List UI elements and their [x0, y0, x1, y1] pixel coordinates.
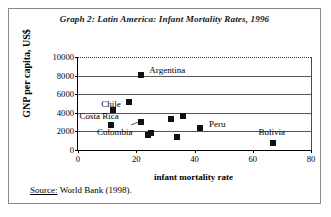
y-tick-label: 4000 [57, 108, 74, 118]
y-tick-label: 2000 [57, 126, 74, 136]
y-tick-mark [75, 113, 78, 114]
y-axis-title: GNP per capita, US$ [21, 26, 32, 122]
point-label-costa-rica: Costa Rica [79, 111, 118, 121]
y-tick-mark [75, 57, 78, 58]
y-tick-label: 8000 [57, 71, 74, 81]
data-point-bolivia [270, 140, 276, 146]
x-tick-label: 20 [132, 154, 141, 164]
x-tick-mark [253, 150, 254, 153]
point-label-argentina: Argentina [149, 65, 185, 75]
data-point [174, 134, 180, 140]
data-point-peru [197, 125, 203, 131]
gridline [78, 94, 311, 95]
gridline [78, 76, 311, 77]
plot-area: 0200040006000800010000 020406080 Argenti… [77, 57, 311, 151]
data-point [126, 99, 132, 105]
x-tick-mark [195, 150, 196, 153]
data-point-argentina [138, 72, 144, 78]
y-tick-label: 6000 [57, 89, 74, 99]
x-tick-mark [311, 150, 312, 153]
y-tick-label: 10000 [53, 52, 74, 62]
y-tick-mark [75, 76, 78, 77]
x-tick-label: 60 [248, 154, 257, 164]
x-axis-title: infant mortality rate [77, 172, 310, 182]
y-tick-label: 0 [70, 145, 74, 155]
point-label-bolivia: Bolivia [259, 127, 286, 137]
y-tick-mark [75, 131, 78, 132]
source-text: World Bank (1998). [60, 185, 132, 195]
data-point-colombia [138, 119, 144, 125]
plot-right-edge [311, 57, 312, 150]
x-tick-label: 0 [76, 154, 80, 164]
x-tick-mark [136, 150, 137, 153]
source-label: Source: [30, 185, 58, 195]
x-tick-mark [78, 150, 79, 153]
gridline [78, 57, 311, 58]
data-point [148, 130, 154, 136]
x-tick-label: 80 [307, 154, 316, 164]
data-point [168, 116, 174, 122]
chart-title: Graph 2: Latin America: Infant Mortality… [8, 14, 321, 24]
point-label-colombia: Colombia [97, 127, 133, 137]
x-tick-label: 40 [190, 154, 199, 164]
source-note: Source: World Bank (1998). [30, 185, 132, 195]
point-label-peru: Peru [209, 119, 226, 129]
figure-root: Graph 2: Latin America: Infant Mortality… [0, 0, 331, 217]
y-tick-mark [75, 94, 78, 95]
data-point [180, 113, 186, 119]
point-label-chile: Chile [101, 99, 121, 109]
